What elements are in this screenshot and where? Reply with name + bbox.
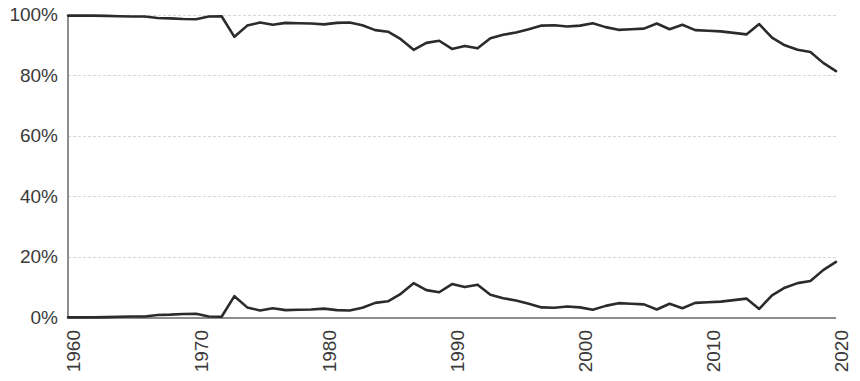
x-tick-label-1980: 1980 <box>319 330 340 372</box>
x-tick-label-2010: 2010 <box>703 330 724 372</box>
y-tick-label-0: 0% <box>31 307 59 328</box>
y-tick-label-100: 100% <box>9 4 58 25</box>
x-tick-label-2020: 2020 <box>831 330 852 372</box>
y-tick-label-80: 80% <box>20 65 58 86</box>
y-tick-label-60: 60% <box>20 125 58 146</box>
chart-container: 0%20%40%60%80%100% 196019701980199020002… <box>0 0 860 381</box>
y-tick-label-40: 40% <box>20 186 58 207</box>
x-tick-label-1990: 1990 <box>447 330 468 372</box>
y-tick-label-20: 20% <box>20 246 58 267</box>
x-tick-label-1970: 1970 <box>191 330 212 372</box>
line-chart: 0%20%40%60%80%100% 196019701980199020002… <box>0 0 860 381</box>
x-tick-label-2000: 2000 <box>575 330 596 372</box>
chart-background <box>0 0 860 381</box>
x-tick-label-1960: 1960 <box>63 330 84 372</box>
